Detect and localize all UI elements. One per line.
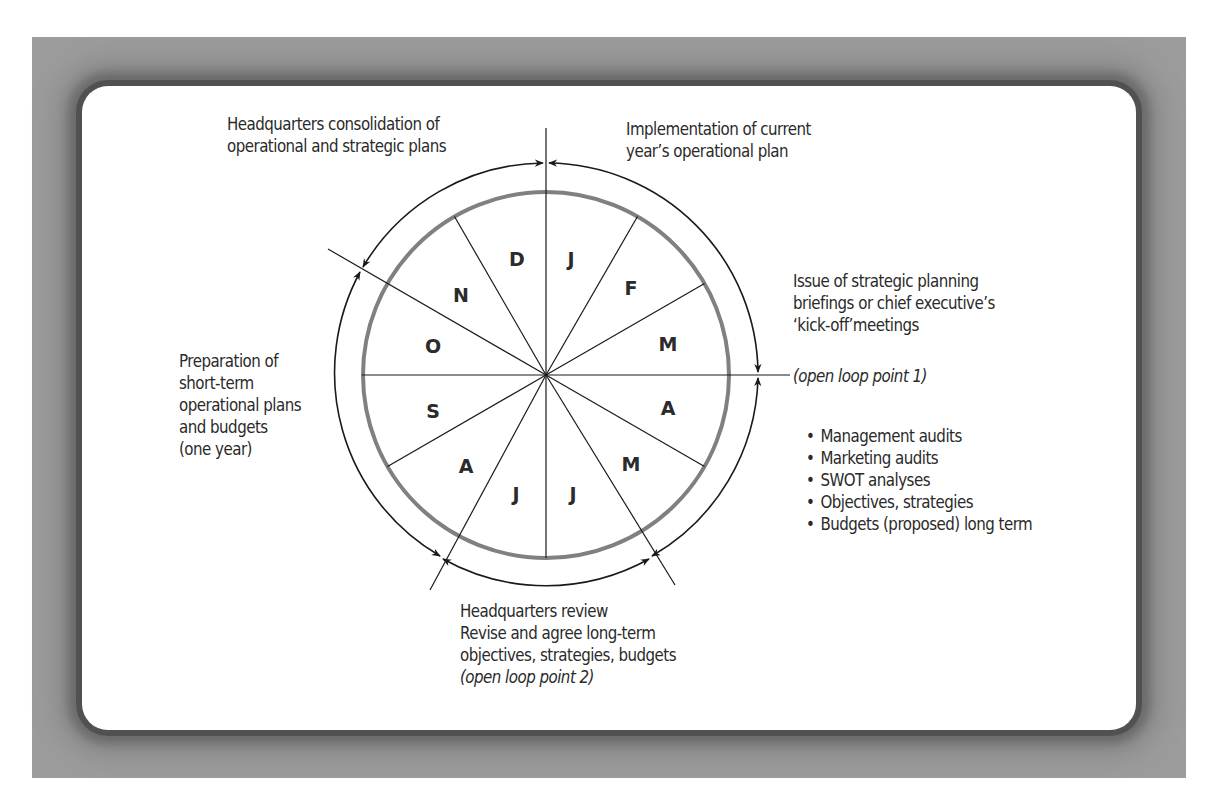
label-line: Revise and agree long-term (460, 622, 676, 644)
month-label: N (453, 284, 469, 306)
month-label: F (625, 277, 638, 299)
label-line: ‘kick-off’meetings (793, 314, 995, 336)
label-line: operational and strategic plans (227, 135, 446, 157)
label-line: and budgets (179, 416, 301, 438)
month-label: M (622, 453, 641, 475)
label-hq-consolidation: Headquarters consolidation of operationa… (227, 113, 446, 157)
bullet-item: Marketing audits (806, 447, 1032, 469)
label-line: Headquarters consolidation of (227, 113, 446, 135)
month-label: A (661, 397, 676, 419)
label-line: objectives, strategies, budgets (460, 644, 676, 666)
label-line: Headquarters review (460, 600, 676, 622)
month-label: S (426, 400, 440, 422)
month-labels: J F M A M J J A S O N D (425, 248, 678, 505)
label-line: Implementation of current (626, 118, 811, 140)
bullet-list: Management audits Marketing audits SWOT … (806, 425, 1032, 535)
month-label: A (459, 455, 474, 477)
label-line: operational plans (179, 394, 301, 416)
month-label: J (567, 483, 576, 505)
month-label: D (509, 248, 525, 270)
label-line: year’s operational plan (626, 140, 811, 162)
bullet-item: Objectives, strategies (806, 491, 1032, 513)
bullet-item: SWOT analyses (806, 469, 1032, 491)
label-line: Preparation of (179, 350, 301, 372)
label-line: Issue of strategic planning (793, 270, 995, 292)
label-preparation: Preparation of short-term operational pl… (179, 350, 301, 460)
label-line: (one year) (179, 438, 301, 460)
month-label: M (659, 333, 678, 355)
label-line: briefings or chief executive’s (793, 292, 995, 314)
month-spokes (328, 128, 790, 590)
label-open-loop-2: (open loop point 2) (460, 666, 676, 688)
month-label: J (510, 483, 519, 505)
label-issue-briefings: Issue of strategic planning briefings or… (793, 270, 995, 336)
month-label: J (565, 248, 574, 270)
bullet-item: Budgets (proposed) long term (806, 513, 1032, 535)
label-hq-review: Headquarters review Revise and agree lon… (460, 600, 676, 688)
label-line: short-term (179, 372, 301, 394)
bullet-item: Management audits (806, 425, 1032, 447)
label-open-loop-1: (open loop point 1) (793, 365, 927, 387)
label-implementation: Implementation of current year’s operati… (626, 118, 811, 162)
month-label: O (425, 335, 441, 357)
